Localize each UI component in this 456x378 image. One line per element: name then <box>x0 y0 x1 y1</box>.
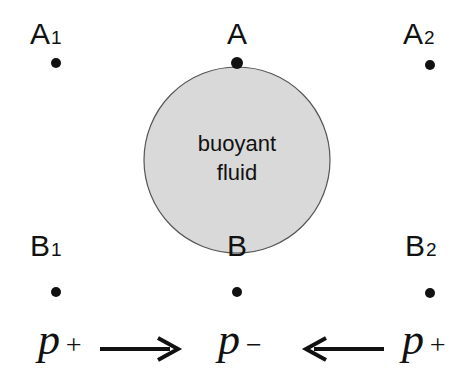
arrow-right-icon <box>100 338 178 360</box>
diagram-canvas: buoyant fluid A1 A A2 B1 B B2 p+ p− p+ <box>0 0 456 378</box>
arrow-left-icon <box>306 338 384 360</box>
point-A-dot <box>231 57 243 69</box>
circle-label-line2: fluid <box>217 160 257 185</box>
point-B-dot <box>232 287 242 297</box>
label-B1: B1 <box>30 229 62 262</box>
point-B1-dot <box>51 287 61 297</box>
point-B2-dot <box>425 288 435 298</box>
pressure-center: p− <box>215 315 263 364</box>
pressure-left: p+ <box>35 315 83 364</box>
pressure-right: p+ <box>399 315 447 364</box>
point-A1-dot <box>51 58 61 68</box>
label-B2: B2 <box>405 229 437 262</box>
point-A2-dot <box>425 60 435 70</box>
label-B: B <box>227 229 247 262</box>
label-A1: A1 <box>30 17 62 50</box>
label-A: A <box>227 17 247 50</box>
label-A2: A2 <box>403 17 435 50</box>
circle-label-line1: buoyant <box>198 131 276 156</box>
